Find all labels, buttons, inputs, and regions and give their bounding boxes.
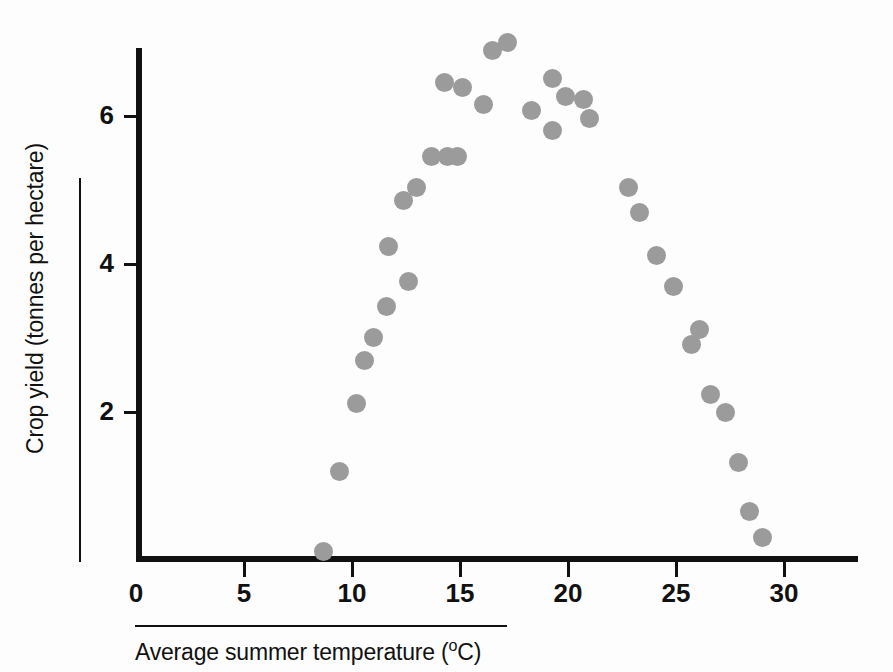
data-point [364,328,383,347]
x-tick-label: 30 [759,580,809,606]
x-axis-label-rule [135,625,507,627]
x-axis-label: Average summer temperature (oC) [135,636,481,666]
y-tick-label: 2 [86,398,114,424]
x-tick-label: 20 [543,580,593,606]
x-tick-label: 0 [111,580,161,606]
x-tick-mark [675,562,678,577]
data-point [740,502,759,521]
data-point [690,320,709,339]
data-point [498,33,517,52]
data-point [716,403,735,422]
y-tick-mark [124,263,137,266]
x-tick-label: 25 [651,580,701,606]
data-point [543,121,562,140]
data-point [435,73,454,92]
data-point [399,272,418,291]
data-point [574,90,593,109]
y-tick-label: 6 [86,102,114,128]
data-point [580,109,599,128]
x-axis-label-main: Average summer temperature ( [135,639,449,665]
data-point [556,87,575,106]
data-point [619,178,638,197]
data-point [407,178,426,197]
x-tick-label: 5 [219,580,269,606]
data-point [543,69,562,88]
y-tick-mark [124,411,137,414]
data-point [453,78,472,97]
data-point [355,351,374,370]
x-tick-mark [351,562,354,577]
data-point [729,453,748,472]
degree-symbol: o [449,636,458,654]
data-point [347,394,366,413]
data-point [647,246,666,265]
x-tick-label: 15 [435,580,485,606]
scatter-plot-figure: Crop yield (tonnes per hectare) 246 0510… [0,0,893,672]
data-point [330,462,349,481]
y-axis-line [136,48,142,562]
data-point [474,95,493,114]
y-tick-mark [124,115,137,118]
y-tick-label: 4 [86,250,114,276]
x-tick-label: 10 [327,580,377,606]
data-point [753,528,772,547]
data-point [379,237,398,256]
data-point [630,203,649,222]
data-point [448,147,467,166]
data-point [522,101,541,120]
x-tick-mark [459,562,462,577]
data-point [701,385,720,404]
x-tick-mark [567,562,570,577]
x-tick-mark [783,562,786,577]
data-point [664,277,683,296]
plot-area: 246 051015202530 [0,0,893,672]
x-axis-label-tail: C) [457,639,481,665]
data-point [377,297,396,316]
x-tick-mark [243,562,246,577]
